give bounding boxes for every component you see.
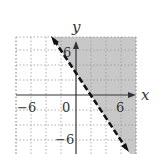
x-axis-label: x bbox=[141, 86, 150, 104]
tick-label-x-pos6: 6 bbox=[116, 100, 124, 115]
tick-label-y-neg6: −6 bbox=[55, 132, 74, 147]
tick-label-origin: 0 bbox=[62, 100, 70, 115]
y-axis-label: y bbox=[71, 18, 81, 36]
inequality-graph: x y −6 0 6 6 −6 bbox=[0, 0, 166, 154]
tick-label-y-pos6: 6 bbox=[63, 45, 71, 60]
tick-label-x-neg6: −6 bbox=[17, 100, 36, 115]
